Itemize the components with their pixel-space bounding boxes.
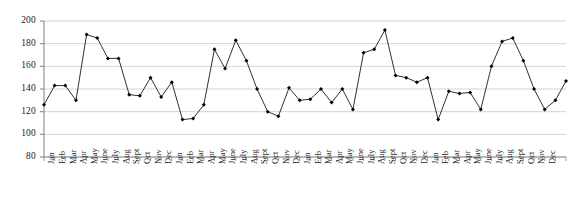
x-axis-label: Sept — [132, 148, 141, 164]
x-axis-label: May — [218, 148, 227, 164]
x-axis-label: July — [239, 149, 248, 164]
data-point — [180, 118, 184, 122]
data-point — [95, 36, 99, 40]
chart-plot-area — [0, 0, 580, 200]
x-axis-label: May — [90, 148, 99, 164]
x-axis-label: Nov — [154, 149, 163, 164]
x-axis-label: Apr — [463, 150, 472, 164]
x-axis-label: Aug — [505, 149, 514, 164]
x-axis-label: June — [356, 148, 365, 164]
x-axis-label: Mar — [324, 150, 333, 164]
x-axis-label: Aug — [250, 149, 259, 164]
x-axis-label: July — [111, 149, 120, 164]
data-point — [372, 47, 376, 51]
y-axis-label-100: 100 — [10, 129, 36, 139]
x-axis-label: Oct — [143, 151, 152, 164]
data-point — [255, 87, 259, 91]
x-axis-label: Dec — [164, 150, 173, 164]
x-axis-label: Aug — [122, 149, 131, 164]
x-axis-label: Oct — [399, 151, 408, 164]
y-axis-label-200: 200 — [10, 16, 36, 26]
x-axis-label: Feb — [186, 151, 195, 164]
x-axis-label: Dec — [420, 150, 429, 164]
x-axis-label: Nov — [537, 149, 546, 164]
line-chart: 80100120140160180200 JanFebMarAprMayJune… — [0, 0, 580, 200]
data-point — [532, 87, 536, 91]
x-axis-label: May — [345, 148, 354, 164]
x-axis-label: Apr — [335, 150, 344, 164]
x-axis-label: Mar — [452, 150, 461, 164]
x-axis-label: Sept — [260, 148, 269, 164]
data-point — [457, 92, 461, 96]
y-axis-label-80: 80 — [10, 152, 36, 162]
x-axis-label: Dec — [292, 150, 301, 164]
data-point — [447, 89, 451, 93]
data-point — [127, 93, 131, 97]
x-axis-label: Oct — [527, 151, 536, 164]
x-axis-label: Apr — [207, 150, 216, 164]
gridlines — [44, 21, 566, 157]
data-point — [489, 64, 493, 68]
x-axis-label: Apr — [79, 150, 88, 164]
x-axis-label: May — [473, 148, 482, 164]
x-axis-label: July — [495, 149, 504, 164]
data-point — [426, 76, 430, 80]
x-axis-label: Mar — [69, 150, 78, 164]
x-axis-label: Sept — [388, 148, 397, 164]
x-axis-label: July — [367, 149, 376, 164]
data-point — [223, 67, 227, 71]
x-axis-label: Jan — [47, 152, 56, 164]
x-axis-label: Nov — [409, 149, 418, 164]
data-point — [244, 59, 248, 63]
data-point — [212, 47, 216, 51]
x-axis-label: June — [228, 148, 237, 164]
y-axis-label-160: 160 — [10, 61, 36, 71]
x-axis-label: Sept — [516, 148, 525, 164]
data-point — [149, 76, 153, 80]
data-point — [362, 51, 366, 55]
x-axis-label: Jan — [175, 152, 184, 164]
data-point — [234, 38, 238, 42]
data-point — [42, 103, 46, 107]
x-axis-label: Feb — [314, 151, 323, 164]
x-axis-label: Nov — [282, 149, 291, 164]
data-point — [521, 59, 525, 63]
data-point — [404, 76, 408, 80]
data-point — [138, 94, 142, 98]
data-point — [415, 80, 419, 84]
x-axis-label: Mar — [196, 150, 205, 164]
y-axis-label-180: 180 — [10, 39, 36, 49]
y-axis-label-140: 140 — [10, 84, 36, 94]
data-point — [564, 79, 568, 83]
data-point — [500, 39, 504, 43]
x-axis-label: June — [484, 148, 493, 164]
data-point — [53, 84, 57, 88]
x-axis-label: Feb — [441, 151, 450, 164]
data-point — [383, 28, 387, 32]
data-point — [511, 36, 515, 40]
x-axis-label: Dec — [548, 150, 557, 164]
data-point — [436, 118, 440, 122]
data-point — [266, 110, 270, 114]
x-axis-label: Oct — [271, 151, 280, 164]
x-axis-label: Jan — [431, 152, 440, 164]
data-point — [394, 73, 398, 77]
y-axis-label-120: 120 — [10, 107, 36, 117]
data-point — [351, 107, 355, 111]
data-point — [85, 33, 89, 37]
x-axis-label: Jan — [303, 152, 312, 164]
x-axis-label: June — [100, 148, 109, 164]
x-axis-label: Feb — [58, 151, 67, 164]
data-point — [117, 56, 121, 60]
data-point — [276, 114, 280, 118]
data-point — [106, 56, 110, 60]
x-axis-label: Aug — [377, 149, 386, 164]
